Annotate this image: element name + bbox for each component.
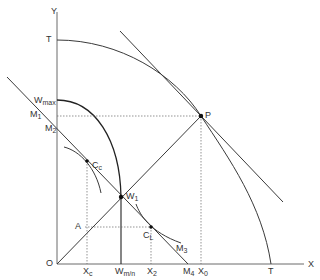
label-t-top: T bbox=[46, 35, 52, 44]
label-a: A bbox=[75, 222, 81, 231]
point-cc bbox=[85, 159, 89, 163]
point-cl bbox=[149, 225, 153, 229]
label-wmn: Wm/n bbox=[115, 267, 135, 277]
label-x2: X2 bbox=[147, 267, 157, 277]
label-y: Y bbox=[51, 7, 57, 16]
label-w1: W1 bbox=[126, 192, 138, 202]
welfare-curve bbox=[57, 100, 121, 197]
label-cl: CL bbox=[143, 231, 153, 241]
label-p: P bbox=[205, 111, 211, 120]
label-cc: Cc bbox=[92, 161, 102, 171]
label-t-bottom: T bbox=[268, 267, 274, 276]
label-x: X bbox=[308, 260, 314, 269]
ray-o-p bbox=[57, 116, 201, 264]
label-xc: Xc bbox=[83, 267, 93, 277]
label-m4: M4 bbox=[183, 267, 194, 277]
label-o: O bbox=[46, 259, 53, 268]
label-w-max: Wmax bbox=[34, 96, 56, 106]
label-m1: M1 bbox=[30, 110, 41, 120]
label-x0: X0 bbox=[198, 267, 208, 277]
label-m2: M2 bbox=[45, 124, 56, 134]
point-p bbox=[199, 114, 203, 118]
label-m3: M3 bbox=[176, 244, 187, 254]
point-w1 bbox=[119, 195, 123, 199]
